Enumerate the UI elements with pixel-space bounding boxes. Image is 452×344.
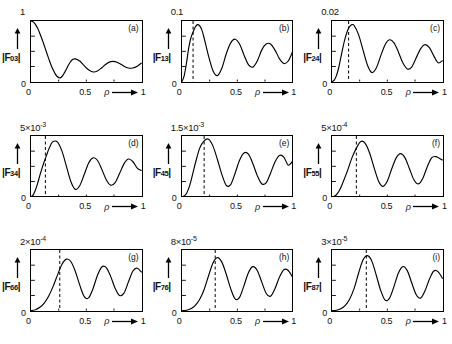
x-tick-label-mid: 0.5	[230, 201, 242, 211]
y-axis-max-label: 0.1	[171, 6, 183, 17]
curve-svg	[332, 136, 443, 197]
y-max-mantissa: 8×10	[171, 236, 191, 247]
y-axis-arrow-icon	[13, 143, 22, 165]
x-tick-label-mid: 0.5	[79, 87, 91, 97]
y-axis-label: |F45|	[153, 167, 171, 178]
y-axis-arrow-icon	[314, 143, 323, 165]
chart-panel-e: 1.5×10-3|F45|(e)000.51ρ	[151, 115, 302, 230]
panel-tag: (i)	[432, 252, 440, 262]
x-tick-label-mid: 0.5	[79, 201, 91, 211]
axis-ticks	[31, 151, 114, 197]
y-axis-max-label: 0.02	[321, 6, 338, 17]
x-tick-label-right: 1	[141, 316, 146, 326]
x-tick-label-right: 1	[291, 316, 296, 326]
x-tick-label-right: 1	[291, 87, 296, 97]
x-axis-arrow-icon	[413, 317, 439, 327]
x-axis-zero-label: 0	[327, 201, 332, 211]
x-axis-symbol: ρ	[104, 202, 109, 212]
chart-panel-d: 5×10-3|F34|(d)000.51ρ	[0, 115, 151, 230]
x-tick-label-mid: 0.5	[230, 316, 242, 326]
plot-area	[331, 20, 444, 83]
y-axis-max-label: 5×10-4	[321, 121, 347, 133]
y-max-exponent: -3	[40, 121, 46, 128]
x-axis-zero-label: 0	[177, 87, 182, 97]
curve-svg	[31, 250, 142, 311]
curve-svg	[31, 136, 142, 197]
panel-tag: (f)	[432, 138, 440, 148]
x-tick-label-right: 1	[442, 87, 447, 97]
plot-area	[30, 20, 143, 83]
data-curve	[332, 141, 443, 197]
data-curve	[182, 25, 293, 82]
curve-svg	[182, 136, 293, 197]
x-tick-label-mid: 0.5	[381, 316, 393, 326]
x-axis-zero-label: 0	[327, 87, 332, 97]
y-max-exponent: -5	[191, 235, 197, 242]
y-axis-label: |F24|	[303, 52, 321, 63]
plot-area	[331, 135, 444, 198]
x-axis-label: ρ	[406, 87, 440, 98]
chart-panel-i: 3×10-5|F87|(i)000.51ρ	[301, 229, 452, 344]
x-axis-zero-label: 0	[26, 316, 31, 326]
y-max-exponent: -5	[342, 235, 348, 242]
chart-panel-a: 1|F03|(a)000.51ρ	[0, 0, 151, 115]
x-tick-label-mid: 0.5	[381, 87, 393, 97]
y-max-exponent: -3	[198, 121, 204, 128]
y-max-mantissa: 2×10	[20, 236, 40, 247]
y-max-exponent: -4	[342, 121, 348, 128]
x-axis-symbol: ρ	[406, 87, 411, 97]
y-axis-max-label: 5×10-3	[20, 121, 46, 133]
x-axis-arrow-icon	[112, 202, 138, 212]
y-axis-label: |F76|	[153, 281, 171, 292]
x-axis-label: ρ	[255, 316, 289, 327]
chart-panel-f: 5×10-4|F55|(f)000.51ρ	[301, 115, 452, 230]
y-max-mantissa: 1.5×10	[171, 122, 199, 133]
curve-svg	[332, 21, 443, 82]
y-max-mantissa: 5×10	[20, 122, 40, 133]
x-axis-arrow-icon	[112, 88, 138, 98]
plot-area	[181, 135, 294, 198]
x-axis-zero-label: 0	[26, 87, 31, 97]
x-tick-label-right: 1	[141, 87, 146, 97]
y-max-mantissa: 3×10	[321, 236, 341, 247]
y-axis-max-label: 1	[20, 6, 25, 17]
x-axis-label: ρ	[406, 316, 440, 327]
axis-ticks	[332, 151, 415, 197]
x-axis-label: ρ	[255, 87, 289, 98]
panel-tag: (d)	[128, 138, 138, 148]
y-max-mantissa: 5×10	[321, 122, 341, 133]
y-axis-label: |F03|	[2, 52, 20, 63]
chart-panel-h: 8×10-5|F76|(h)000.51ρ	[151, 229, 302, 344]
x-axis-arrow-icon	[413, 202, 439, 212]
y-axis-arrow-icon	[13, 28, 22, 50]
panel-tag: (h)	[279, 252, 289, 262]
chart-panel-b: 0.1|F13|(b)000.51ρ	[151, 0, 302, 115]
plot-area	[181, 20, 294, 83]
x-axis-arrow-icon	[263, 317, 289, 327]
y-axis-max-label: 8×10-5	[171, 235, 197, 247]
x-axis-symbol: ρ	[104, 316, 109, 326]
x-axis-arrow-icon	[112, 317, 138, 327]
panel-tag: (c)	[430, 23, 440, 33]
plot-area	[30, 135, 143, 198]
x-axis-zero-label: 0	[177, 201, 182, 211]
data-curve	[182, 258, 293, 311]
axis-ticks	[332, 265, 415, 310]
panel-tag: (a)	[128, 23, 138, 33]
panel-tag: (e)	[279, 138, 289, 148]
y-axis-max-label: 2×10-4	[20, 235, 46, 247]
x-axis-zero-label: 0	[26, 201, 31, 211]
x-axis-symbol: ρ	[104, 87, 109, 97]
x-axis-symbol: ρ	[406, 316, 411, 326]
x-tick-label-right: 1	[442, 201, 447, 211]
axis-ticks	[182, 36, 265, 81]
x-axis-symbol: ρ	[255, 316, 260, 326]
x-axis-zero-label: 0	[327, 316, 332, 326]
figure-panel-grid: 1|F03|(a)000.51ρ 0.1|F13|(b)000.51ρ 0.02…	[0, 0, 452, 344]
data-curve	[182, 139, 293, 197]
x-axis-label: ρ	[104, 316, 138, 327]
x-axis-label: ρ	[406, 202, 440, 213]
x-axis-label: ρ	[104, 202, 138, 213]
panel-tag: (g)	[128, 252, 138, 262]
data-curve	[31, 21, 142, 78]
